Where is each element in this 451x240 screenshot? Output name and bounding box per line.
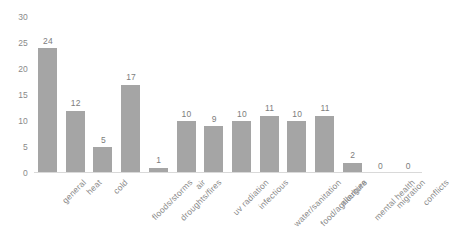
bar-value-label: 24	[34, 37, 62, 46]
bar[interactable]	[93, 147, 112, 173]
y-axis-tick-label: 15	[0, 91, 28, 100]
bar[interactable]	[177, 121, 196, 173]
bar-value-label: 9	[200, 115, 228, 124]
bar-slot: 17	[117, 12, 145, 173]
bar-value-label: 2	[339, 151, 367, 160]
bar[interactable]	[315, 116, 334, 173]
bar-value-label: 1	[145, 156, 173, 165]
bar-value-label: 5	[89, 136, 117, 145]
bar-value-label: 10	[173, 110, 201, 119]
bar-slot: 10	[173, 12, 201, 173]
bar[interactable]	[287, 121, 306, 173]
bar-slot: 11	[311, 12, 339, 173]
y-axis-tick-label: 0	[0, 169, 28, 178]
bar-slot: 2	[339, 12, 367, 173]
y-axis-tick-label: 5	[0, 143, 28, 152]
y-axis-tick-label: 10	[0, 117, 28, 126]
bar-slot: 10	[283, 12, 311, 173]
bar-slot: 10	[228, 12, 256, 173]
y-axis-tick-label: 30	[0, 13, 28, 22]
x-axis-tick-label: allergies	[339, 178, 369, 208]
bar[interactable]	[204, 126, 223, 173]
x-axis-tick-label: heat	[85, 178, 103, 196]
bar-slot: 1	[145, 12, 173, 173]
bar-slot: 11	[256, 12, 284, 173]
bar[interactable]	[66, 111, 85, 173]
bar-slot: 9	[200, 12, 228, 173]
bar-value-label: 0	[366, 162, 394, 171]
x-axis-tick-label: general	[61, 178, 88, 205]
bar-value-label: 11	[256, 104, 284, 113]
bar-slot: 24	[34, 12, 62, 173]
bar-value-label: 10	[228, 110, 256, 119]
x-axis-line	[34, 172, 422, 173]
plot-area: 2412517110910111011200	[34, 12, 422, 173]
bar[interactable]	[38, 48, 57, 173]
bar-slot: 12	[62, 12, 90, 173]
bar-value-label: 17	[117, 73, 145, 82]
bar-slot: 0	[394, 12, 422, 173]
bar[interactable]	[260, 116, 279, 173]
bar-value-label: 12	[62, 99, 90, 108]
bar[interactable]	[232, 121, 251, 173]
y-axis-tick-label: 25	[0, 39, 28, 48]
y-axis-tick-label: 20	[0, 65, 28, 74]
y-axis: 051015202530	[0, 0, 34, 240]
x-axis: generalheatcoldfloods/stormsdroughts/fir…	[34, 174, 442, 240]
bar-slot: 0	[366, 12, 394, 173]
x-axis-tick-label: cold	[112, 178, 130, 196]
bar[interactable]	[121, 85, 140, 173]
bar-value-label: 11	[311, 104, 339, 113]
chart-title	[110, 0, 330, 5]
bar-value-label: 0	[394, 162, 422, 171]
bar-value-label: 10	[283, 110, 311, 119]
bar-slot: 5	[89, 12, 117, 173]
